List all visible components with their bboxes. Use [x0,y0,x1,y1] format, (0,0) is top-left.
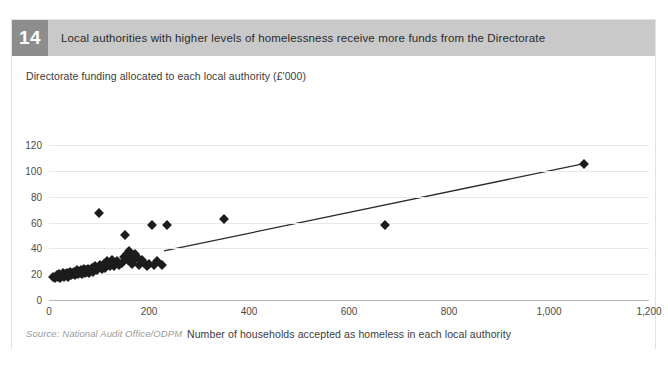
x-tick-label: 1,200 [636,306,661,317]
figure-body: Directorate funding allocated to each lo… [12,56,655,349]
y-tick-label: 80 [12,191,42,202]
data-point [579,159,589,169]
trendline-segment [164,163,587,251]
figure-title: Local authorities with higher levels of … [48,20,545,56]
gridline [49,197,649,198]
gridline [49,145,649,146]
gridline [49,223,649,224]
gridline [49,171,649,172]
x-tick-label: 1,000 [536,306,561,317]
y-tick-label: 120 [12,140,42,151]
y-tick-label: 0 [12,295,42,306]
x-tick-label: 600 [341,306,358,317]
figure-number-badge: 14 [12,20,48,56]
gridline [49,248,649,249]
x-tick-label: 200 [141,306,158,317]
gridline [49,274,649,275]
y-tick-label: 100 [12,165,42,176]
x-tick-label: 0 [46,306,52,317]
data-point [120,230,130,240]
source-note: Source: National Audit Office/ODPM [26,328,182,339]
x-tick-label: 400 [241,306,258,317]
figure-header: 14 Local authorities with higher levels … [12,20,655,56]
x-axis-line [49,300,649,301]
figure-card: 14 Local authorities with higher levels … [11,19,656,349]
scatter-plot-area: 02040608010012002004006008001,0001,200 [12,56,655,349]
y-tick-label: 20 [12,269,42,280]
y-tick-label: 60 [12,217,42,228]
y-tick-label: 40 [12,243,42,254]
x-tick-label: 800 [441,306,458,317]
data-point [94,209,104,219]
